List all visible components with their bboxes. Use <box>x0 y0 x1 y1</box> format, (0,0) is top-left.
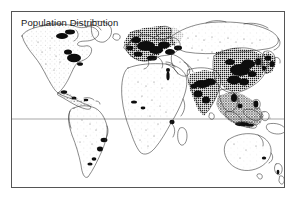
page-title: Population Distribution <box>21 17 118 29</box>
world-map-canvas <box>12 12 285 188</box>
population-density-stipple <box>12 12 285 188</box>
population-distribution-figure: Population Distribution <box>0 0 296 199</box>
map-frame: Population Distribution <box>11 11 285 188</box>
